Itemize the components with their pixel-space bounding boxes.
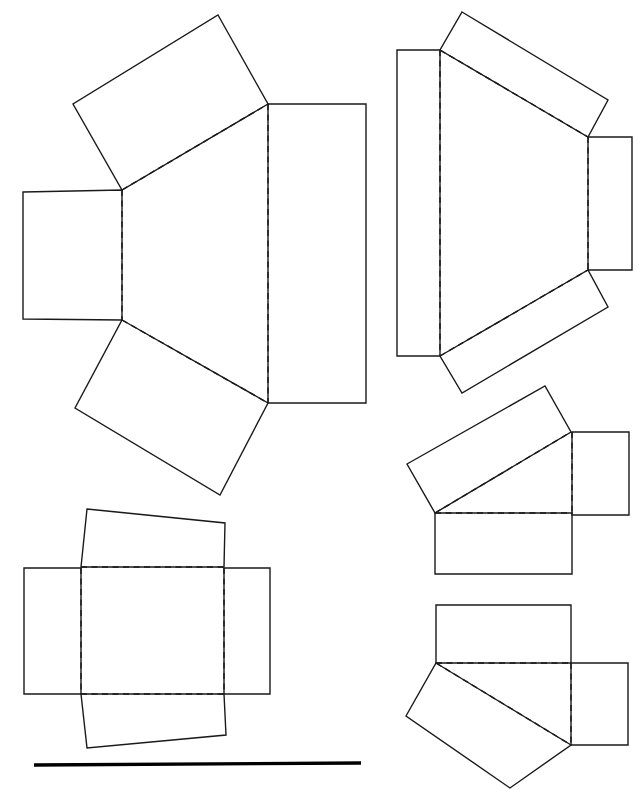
angled-carton-net-lower — [406, 605, 628, 788]
bottom-flap-panel-face — [81, 694, 226, 748]
flat-cross-net — [24, 509, 270, 748]
right-main-panel-face — [268, 104, 366, 403]
right-side-panel-face — [588, 137, 632, 270]
bottom-flap-panel-face — [75, 320, 268, 495]
tilted-bottom-panel-face — [406, 663, 571, 788]
left-side-panel-face — [24, 568, 81, 694]
horizontal-rule — [34, 763, 361, 765]
figure-sheet — [0, 0, 641, 790]
bottom-panel-face — [435, 513, 572, 574]
top-flap-panel-face — [440, 12, 608, 137]
top-flap-panel-face — [81, 509, 225, 567]
open-carton-net-large — [23, 15, 366, 495]
right-side-panel-face — [571, 663, 628, 745]
angled-carton-net-upper — [407, 386, 629, 574]
bottom-flap-panel-face — [440, 270, 608, 393]
right-side-panel-face — [572, 432, 629, 515]
tapered-carton-net — [397, 12, 632, 393]
left-main-panel-face — [397, 50, 440, 356]
top-flap-panel-face — [73, 15, 268, 190]
top-panel-face — [436, 605, 571, 663]
left-side-panel-face — [23, 190, 122, 320]
right-side-panel-face — [224, 568, 270, 694]
box-net-drawing-canvas — [0, 0, 641, 790]
